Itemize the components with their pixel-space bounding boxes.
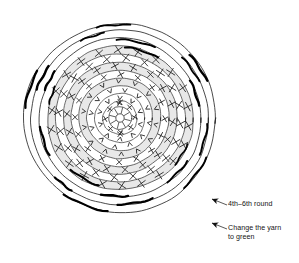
- stitch-symbol-x: [141, 59, 148, 66]
- stitch-symbol-v: [113, 144, 118, 148]
- stitch-symbol-v: [139, 133, 145, 139]
- ring-accent-dash: [25, 71, 37, 108]
- stitch-symbol-x: [162, 154, 169, 161]
- annotation-arrows-layer: [212, 199, 227, 229]
- center-spoke: [122, 122, 125, 127]
- stitch-symbol-x: [99, 155, 105, 161]
- ring-accent-dash: [101, 195, 128, 197]
- stitch-symbol-x: [158, 132, 164, 138]
- stitch-symbol-x: [60, 91, 67, 98]
- stitch-symbol-v: [99, 136, 105, 142]
- stitch-symbol-v: [147, 121, 151, 126]
- center-spoke: [117, 123, 118, 129]
- stitch-symbol-v: [137, 109, 142, 114]
- annotation-yarn-change-label: Change the yarn to green: [228, 224, 281, 243]
- stitch-symbol-x: [118, 71, 124, 77]
- stitch-symbol-v: [129, 99, 134, 104]
- stitch-symbol-v: [98, 109, 102, 114]
- center-spoke: [111, 120, 116, 123]
- center-spoke: [124, 113, 129, 116]
- stitch-symbol-x: [110, 174, 117, 181]
- stitch-symbol-x: [103, 56, 110, 63]
- stitch-symbol-v: [123, 89, 127, 93]
- annotation-yarn-change[interactable]: Change the yarn to green: [228, 224, 281, 243]
- stitch-symbol-x: [158, 99, 164, 105]
- stitch-symbol-v: [118, 137, 123, 141]
- stitch-symbol-x: [117, 159, 122, 164]
- stitch-symbol-x: [147, 166, 154, 173]
- annotation-round-range-label: 4th–6th round: [228, 200, 272, 209]
- annotation-arrow-round-range: [212, 199, 227, 205]
- ring-outline-2: [94, 93, 144, 142]
- stitch-symbol-v: [107, 89, 112, 94]
- annotation-round-range[interactable]: 4th–6th round: [228, 200, 272, 209]
- stitch-symbol-x: [76, 132, 81, 137]
- stitch-symbol-x: [85, 146, 91, 152]
- stitch-symbol-x: [101, 75, 106, 80]
- stitch-symbol-x: [162, 116, 168, 122]
- stitch-symbol-x: [176, 120, 184, 128]
- stitch-symbol-v: [127, 142, 132, 146]
- center-spoke: [115, 109, 118, 114]
- stitch-symbol-v: [105, 99, 111, 104]
- stitch-symbol-x: [108, 126, 112, 130]
- stitch-symbol-x: [130, 172, 137, 179]
- stitch-symbol-x: [86, 63, 93, 70]
- ring-accent-dash: [97, 24, 131, 27]
- stitch-symbol-x: [76, 98, 81, 103]
- stitch-symbol-v: [138, 122, 142, 127]
- magic-ring-circle: [116, 114, 124, 122]
- ring-accent-dash: [40, 127, 50, 155]
- stitch-symbol-v: [90, 125, 95, 130]
- stitch-symbol-v: [95, 97, 100, 102]
- annotation-arrow-yarn-change: [212, 223, 227, 229]
- stitch-symbol-x: [86, 84, 91, 89]
- stitch-symbol-v: [130, 132, 136, 138]
- stitch-symbol-x: [127, 105, 132, 110]
- stitch-symbol-v: [145, 105, 150, 110]
- stitch-symbol-x: [128, 125, 133, 130]
- ring-shading-layer: [48, 46, 194, 190]
- center-spoke: [125, 119, 131, 120]
- stitch-symbol-x: [64, 145, 71, 152]
- ring-accent-dash: [45, 71, 55, 90]
- center-spoke: [110, 115, 116, 116]
- stitch-symbol-x: [135, 75, 140, 80]
- stitch-symbol-x: [103, 116, 108, 121]
- stitch-symbol-x: [57, 127, 64, 134]
- stitch-symbol-v: [89, 111, 94, 116]
- diagram-canvas: 4th–6th round Change the yarn to green: [0, 0, 299, 263]
- center-spoke: [121, 108, 122, 114]
- stitch-symbol-v: [98, 122, 103, 127]
- stitch-symbol-x: [73, 115, 78, 120]
